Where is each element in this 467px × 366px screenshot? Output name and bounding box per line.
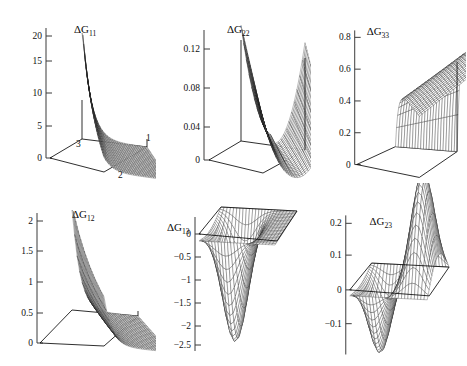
z-tick-label: 0.04 [183,122,200,132]
z-tick-label: 0.5 [21,308,33,318]
z-tick-label: 1.5 [21,246,33,256]
z-tick-label: 2 [28,216,33,226]
plot-dG13: 0 −0.5 −1 −1.5 −2 −2.5 ΔG13 [155,183,311,366]
surface-mesh [241,25,311,177]
panel-dG11: 0 5 10 15 20 3 2 1 ΔG11 [0,0,156,183]
z-tick-label: −1 [181,275,191,285]
surface-mesh [350,183,449,352]
panel-title-dG33: ΔG33 [367,25,390,40]
z-tick-label: −0.5 [174,252,191,262]
z-ticks [46,36,52,158]
z-tick-label: 0.8 [339,32,351,42]
z-tick-label: 0.2 [330,218,342,228]
z-ticks [346,223,352,323]
corner-label-2: 2 [118,170,123,180]
z-tick-label: 5 [37,121,42,131]
panel-title-dG23: ΔG23 [370,215,393,230]
z-tick-label: −1.5 [174,298,191,308]
z-tick-label: 0.12 [183,44,200,54]
z-tick-label: 10 [33,88,43,98]
z-tick-label: −0.1 [325,319,342,329]
z-tick-label: 0.08 [183,83,200,93]
panel-dG12: 0 0.5 1 1.5 2 ΔG12 [0,183,156,366]
z-tick-label: 0.2 [339,128,351,138]
z-tick-label: 0 [37,153,42,163]
surface-mesh [72,210,156,352]
surface-mesh [395,53,466,152]
z-tick-label: −2 [181,321,191,331]
plot-dG12: 0 0.5 1 1.5 2 ΔG12 [0,183,156,366]
z-tick-label: 0 [337,285,342,295]
panel-dG23: 0.2 0.1 0 −0.1 ΔG23 [310,183,466,366]
z-tick-label: 0 [346,160,351,170]
panel-title-dG11: ΔG11 [74,23,97,38]
corner-label-3: 3 [76,139,81,149]
plot-dG11: 0 5 10 15 20 3 2 1 ΔG11 [0,0,156,183]
panel-title-dG22: ΔG22 [227,23,250,38]
corner-label-1: 1 [146,133,151,143]
z-ticks [204,49,210,160]
z-tick-label: 0 [28,338,33,348]
plot-dG23: 0.2 0.1 0 −0.1 ΔG23 [310,183,466,366]
z-ticks [195,234,201,345]
z-tick-label: 0 [195,155,200,165]
plot-dG22: 0 0.04 0.08 0.12 ΔG22 [155,0,311,183]
z-tick-label: 15 [33,56,43,66]
figure-container: 0 5 10 15 20 3 2 1 ΔG11 [0,0,467,366]
z-tick-label: 0.6 [339,64,351,74]
z-tick-label: 20 [33,31,43,41]
z-tick-label: −2.5 [174,340,191,350]
z-ticks [355,37,361,164]
panel-dG13: 0 −0.5 −1 −1.5 −2 −2.5 ΔG13 [155,183,311,366]
surface-mesh [199,207,297,341]
surface-mesh [82,33,156,180]
plot-dG33: 0 0.2 0.4 0.6 0.8 ΔG33 [310,0,466,183]
panel-dG22: 0 0.04 0.08 0.12 ΔG22 [155,0,311,183]
z-ticks [37,221,43,343]
z-tick-label: 0.4 [339,96,351,106]
panel-dG33: 0 0.2 0.4 0.6 0.8 ΔG33 [310,0,466,183]
base-plane [357,147,457,178]
z-tick-label: 1 [28,277,33,287]
z-tick-label: 0.1 [330,250,342,260]
panel-title-dG13: ΔG13 [167,221,190,236]
